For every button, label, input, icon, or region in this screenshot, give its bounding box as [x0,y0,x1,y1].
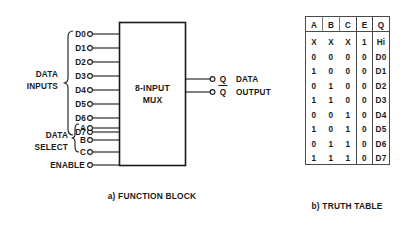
function-block-caption: a) FUNCTION BLOCK [108,191,197,201]
data-output-label-line2: OUTPUT [236,88,271,97]
cell-r5-c: 1 [346,111,351,120]
truth-table-col-q: Q [378,21,385,30]
pin-label-c: C [80,148,86,157]
table-row: 1 1 0 0 D3 [312,96,387,105]
cell-r0-b: X [328,38,334,47]
table-row: 1 1 1 0 D7 [312,154,387,163]
table-row: 1 0 0 0 D1 [312,67,387,76]
function-block-group: 8-INPUT MUX D0 D1 D2 D3 [27,23,271,202]
select-pins-final: A B C [80,124,120,157]
cell-r3-e: 0 [362,82,367,91]
pin-dot-qbar[interactable] [210,90,215,95]
cell-r7-e: 0 [362,140,367,149]
cell-r8-q: D7 [376,154,387,163]
mux-figure: 8-INPUT MUX D0 D1 D2 D3 [0,0,414,228]
cell-r7-c: 1 [346,140,351,149]
table-row: X X X 1 Hi [311,38,385,47]
cell-r2-b: 0 [329,67,334,76]
truth-table-group: A B C E Q X X X 1 Hi 0 0 0 0 D0 [306,17,390,212]
data-inputs-brace [64,31,74,135]
cell-r8-e: 0 [362,154,367,163]
cell-r8-c: 1 [346,154,351,163]
enable-pin-group: ENABLE [50,161,119,170]
output-label-q: Q [220,75,227,84]
cell-r4-e: 0 [362,96,367,105]
cell-r0-e: 1 [362,38,367,47]
pin-dot-d0[interactable] [88,32,93,37]
pin-dot-d2[interactable] [88,60,93,65]
data-inputs-label-line1: DATA [36,70,58,79]
truth-table-col-c: C [345,21,351,30]
pin-dot-d3[interactable] [88,74,93,79]
cell-r8-b: 1 [329,154,334,163]
truth-table-col-b: B [328,21,334,30]
truth-table-col-a: A [311,21,317,30]
pin-dot-b[interactable] [88,138,93,143]
cell-r6-c: 1 [346,125,351,134]
cell-r5-a: 0 [312,111,317,120]
mux-block-body [120,23,186,166]
cell-r1-q: D0 [376,53,387,62]
data-select-label-line2: SELECT [35,143,69,152]
cell-r2-e: 0 [362,67,367,76]
data-inputs-label-line2: INPUTS [27,82,59,91]
mux-block-label-line2: MUX [143,95,163,105]
data-input-pins: D0 D1 D2 D3 D4 D5 [75,30,119,137]
pin-label-d2: D2 [75,58,86,67]
table-row: 0 0 1 0 D4 [312,111,387,120]
cell-r2-q: D1 [376,67,387,76]
pin-dot-q[interactable] [210,77,215,82]
data-output-label-line1: DATA [236,75,258,84]
pin-dot-c[interactable] [88,150,93,155]
table-row: 0 1 1 0 D6 [312,140,387,149]
cell-r1-b: 0 [329,53,334,62]
cell-r1-a: 0 [312,53,317,62]
cell-r6-a: 1 [312,125,317,134]
pin-label-a: A [80,124,86,133]
pin-label-d1: D1 [75,44,86,53]
enable-label: ENABLE [50,161,85,170]
cell-r7-b: 1 [329,140,334,149]
table-row: 0 0 0 0 D0 [312,53,387,62]
pin-label-d4: D4 [75,86,86,95]
table-row: 0 1 0 0 D2 [312,82,387,91]
cell-r3-q: D2 [376,82,387,91]
mux-block-label-line1: 8-INPUT [135,83,170,93]
pin-dot-d5[interactable] [88,102,93,107]
cell-r5-e: 0 [362,111,367,120]
pin-dot-a[interactable] [88,126,93,131]
figure-canvas: 8-INPUT MUX D0 D1 D2 D3 [0,0,414,228]
cell-r3-a: 0 [312,82,317,91]
data-select-label-line1: DATA [46,131,68,140]
cell-r2-c: 0 [346,67,351,76]
cell-r1-c: 0 [346,53,351,62]
cell-r4-c: 0 [346,96,351,105]
cell-r0-q: Hi [377,38,386,47]
pin-label-b: B [80,136,86,145]
cell-r4-b: 1 [329,96,334,105]
pin-dot-d4[interactable] [88,88,93,93]
cell-r3-c: 0 [346,82,351,91]
cell-r7-a: 0 [312,140,317,149]
pin-label-d3: D3 [75,72,86,81]
cell-r1-e: 0 [362,53,367,62]
cell-r6-q: D5 [376,125,387,134]
cell-r5-q: D4 [376,111,387,120]
pin-label-d5: D5 [75,100,86,109]
cell-r8-a: 1 [312,154,317,163]
pin-dot-d6[interactable] [88,116,93,121]
cell-r4-q: D3 [376,96,387,105]
cell-r0-a: X [311,38,317,47]
table-row: 1 0 1 0 D5 [312,125,387,134]
cell-r7-q: D6 [376,140,387,149]
output-pins-group: Q Q DATA OUTPUT [186,75,271,97]
cell-r2-a: 1 [312,67,317,76]
pin-dot-enable[interactable] [88,163,93,168]
cell-r3-b: 1 [329,82,334,91]
output-label-qbar: Q [220,88,227,97]
pin-dot-d1[interactable] [88,46,93,51]
cell-r0-c: X [345,38,351,47]
cell-r4-a: 1 [312,96,317,105]
truth-table-caption: b) TRUTH TABLE [311,201,382,211]
cell-r6-b: 0 [329,125,334,134]
